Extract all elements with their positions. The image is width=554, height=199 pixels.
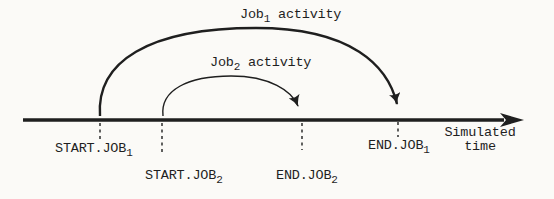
job1-activity-arc [100,28,397,116]
start-job2-label-subscript: 2 [216,174,222,186]
start-job2-label: START.JOB2 [145,169,223,183]
start-job1-label: START.JOB1 [55,142,133,156]
end-job2-label-text: END.JOB [276,168,331,183]
simulated-time-label-line2: time [434,140,526,154]
job-activity-timeline-figure: Job1 activity Job2 activity START.JOB1 S… [0,0,554,199]
end-job1-label-subscript: 1 [423,144,429,156]
start-job2-label-text: START.JOB [145,168,216,183]
end-job1-label-text: END.JOB [368,138,423,153]
job2-activity-label: Job2 activity [210,56,311,70]
end-job2-label: END.JOB2 [276,169,338,183]
job2-activity-label-suffix: activity [240,55,311,70]
job2-activity-label-subscript: 2 [234,61,240,73]
job1-activity-label-text: Job [240,7,264,22]
end-job2-label-subscript: 2 [331,174,337,186]
job2-activity-label-text: Job [210,55,234,70]
simulated-time-label-line1: Simulated [434,126,526,140]
end-job1-label: END.JOB1 [368,139,430,153]
job1-activity-label-subscript: 1 [264,13,270,25]
job2-activity-arc [163,76,298,116]
start-job1-label-subscript: 1 [126,147,132,159]
simulated-time-label: Simulated time [434,126,526,154]
job1-activity-label-suffix: activity [270,7,341,22]
start-job1-label-text: START.JOB [55,141,126,156]
job1-activity-label: Job1 activity [240,8,341,22]
